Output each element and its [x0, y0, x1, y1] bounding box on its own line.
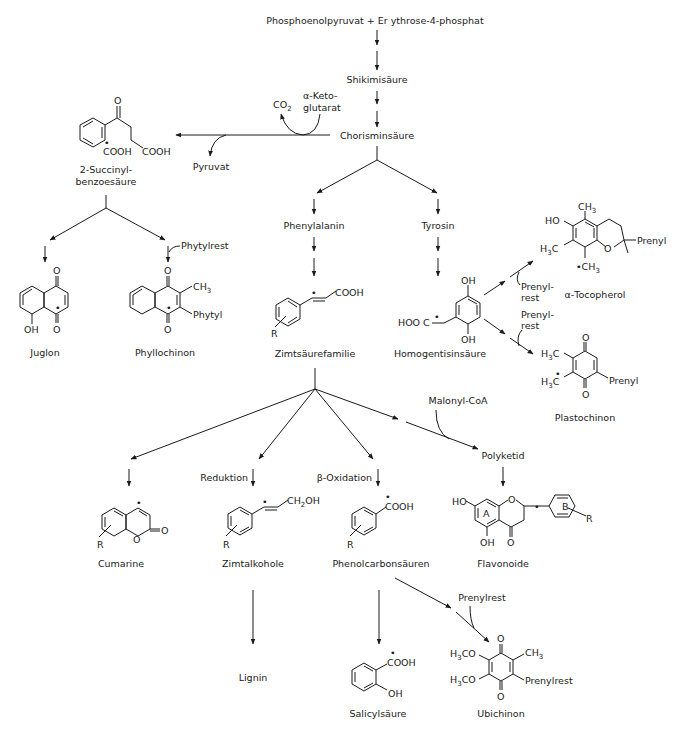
svg-text:CH2OH: CH2OH [287, 495, 320, 509]
node-ketoglutarat: α-Keto- [303, 90, 337, 101]
svg-text:B: B [562, 501, 569, 512]
svg-text:H3CO: H3CO [450, 648, 476, 662]
node-succinylbenzoesaeure-line2: benzoesäure [76, 176, 137, 187]
svg-text:O: O [161, 525, 168, 536]
arrow [510, 261, 533, 277]
svg-text:O: O [53, 265, 60, 276]
node-salicylsaeure: Salicylsäure [350, 708, 407, 719]
node-tocopherol: α-Tocopherol [565, 289, 626, 300]
label-beta-oxidation: β-Oxidation [317, 472, 372, 483]
node-zimtsaeurefamilie: Zimtsäurefamilie [275, 348, 356, 359]
svg-text:•: • [534, 501, 540, 512]
structure-zimtalkohole: CH2OH • R [223, 495, 320, 550]
svg-text:HO: HO [452, 496, 467, 507]
arrow [406, 422, 478, 449]
svg-text:Phytyl: Phytyl [193, 309, 222, 320]
node-zimtalkohole: Zimtalkohole [222, 558, 284, 569]
node-pyruvat: Pyruvat [193, 161, 230, 172]
svg-text:OH: OH [461, 275, 476, 286]
structure-phenolcarbonsaeuren: COOH • R [347, 491, 414, 550]
svg-text:O: O [53, 324, 60, 335]
node-prenylrest-b: Prenyl- [521, 309, 554, 320]
svg-text:O: O [114, 95, 121, 106]
node-ubichinon: Ubichinon [477, 708, 524, 719]
svg-text:HOO C: HOO C [398, 317, 430, 328]
svg-text:O: O [133, 534, 140, 545]
svg-text:•: • [555, 368, 561, 379]
structure-zimtsaeure: COOH • R [271, 287, 364, 339]
svg-text:Prenyl: Prenyl [637, 235, 666, 246]
svg-text:•: • [166, 302, 172, 313]
svg-text:R: R [97, 539, 104, 550]
arrow [317, 160, 377, 193]
structure-succinylbenzoesaeure: O COOH • COOH [80, 95, 171, 157]
node-juglon: Juglon [29, 347, 59, 358]
node-lignin: Lignin [239, 672, 268, 683]
svg-text:A: A [483, 508, 490, 519]
node-homogentisinsaeure: Homogentisinsäure [394, 348, 486, 359]
svg-text:•: • [262, 496, 268, 507]
svg-text:OH: OH [24, 324, 39, 335]
svg-text:O: O [582, 389, 589, 400]
phytylrest-connector [169, 246, 180, 252]
svg-text:H3C: H3C [541, 348, 560, 362]
structure-juglon: O O OH • [20, 265, 68, 335]
svg-text:O: O [497, 633, 504, 644]
svg-text:•: • [390, 647, 396, 658]
node-pep-e4p: Phosphoenolpyruvat + Er ythrose-4-phosph… [266, 15, 484, 26]
svg-text:O: O [507, 537, 514, 548]
svg-text:•: • [434, 311, 440, 322]
node-succinylbenzoesaeure: 2-Succinyl- [80, 164, 132, 175]
structure-salicylsaeure: COOH • OH [352, 647, 416, 699]
arrow [484, 281, 505, 295]
node-phenylalanin: Phenylalanin [284, 220, 345, 231]
arrow [456, 612, 489, 642]
arrow [50, 208, 106, 240]
svg-text:H3CO: H3CO [450, 674, 476, 688]
svg-text:•: • [55, 302, 61, 313]
node-polyketid: Polyketid [482, 450, 525, 461]
svg-text:R: R [347, 539, 354, 550]
node-shikimisaeure: Shikimisäure [346, 74, 407, 85]
node-prenylrest-b-line2: rest [521, 320, 539, 331]
arrow [395, 578, 451, 608]
svg-text:O: O [604, 243, 611, 254]
svg-text:Prenylrest: Prenylrest [525, 675, 573, 686]
prenylrest-connector [517, 272, 520, 285]
svg-text:•: • [104, 137, 110, 148]
structure-cumarine: O O • R [97, 497, 168, 550]
svg-text:O: O [497, 691, 504, 702]
svg-text:COOH: COOH [385, 501, 414, 512]
node-phenolcarbonsaeuren: Phenolcarbonsäuren [332, 558, 429, 569]
node-flavonoide: Flavonoide [477, 558, 529, 569]
svg-text:OH: OH [388, 688, 403, 699]
svg-text:R: R [271, 328, 278, 339]
svg-text:O: O [582, 332, 589, 343]
node-phyllochinon: Phyllochinon [135, 347, 195, 358]
structure-flavonoide: O O OH HO A B R • [452, 494, 593, 548]
arrow [510, 338, 533, 354]
svg-text:•CH3: •CH3 [576, 261, 600, 275]
node-ketoglutarat-line2: glutarat [303, 102, 341, 113]
svg-text:HO: HO [545, 215, 560, 226]
svg-text:O: O [164, 265, 171, 276]
structure-homogentisinsaeure: OH OH HOO C • [398, 275, 480, 345]
svg-text:CH3: CH3 [578, 201, 596, 215]
svg-text:OH: OH [480, 537, 495, 548]
arrow-co2-loop [281, 114, 320, 135]
arrow [484, 319, 505, 334]
node-prenylrest-c: Prenylrest [458, 592, 506, 603]
structure-ubichinon: O O H3CO H3CO CH3 Prenylrest [450, 633, 573, 702]
arrow [106, 208, 165, 240]
node-prenylrest-a: Prenyl- [521, 281, 554, 292]
svg-text:O: O [508, 494, 515, 505]
svg-text:R: R [223, 539, 230, 550]
biosynthesis-pathway-diagram: Phosphoenolpyruvat + Er ythrose-4-phosph… [0, 0, 687, 732]
svg-text:H3C: H3C [540, 243, 559, 257]
arrow [377, 160, 437, 193]
svg-text:•: • [311, 287, 317, 298]
node-co2: CO2 [273, 99, 292, 113]
node-malonyl-coa: Malonyl-CoA [428, 395, 488, 406]
node-prenylrest-a-line2: rest [521, 292, 539, 303]
structure-tocopherol: O CH3 HO H3C •CH3 Prenyl [540, 201, 666, 275]
